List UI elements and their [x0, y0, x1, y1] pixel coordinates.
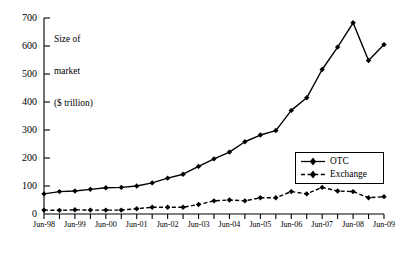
legend-label-otc: OTC [330, 156, 349, 166]
y-axis-title-line-3: ($ trillion) [54, 98, 93, 109]
y-axis-tick-label: 100 [0, 180, 37, 191]
y-axis-tick-label: 200 [0, 152, 37, 163]
legend-swatch-otc-icon [300, 156, 326, 167]
y-axis-tick-label: 0 [0, 208, 37, 219]
y-axis-title-line-1: Size of [54, 34, 93, 45]
y-axis-tick-label: 600 [0, 40, 37, 51]
y-axis-tick-label: 500 [0, 68, 37, 79]
y-axis-title: Size of market ($ trillion) [54, 13, 93, 130]
y-axis-title-line-2: market [54, 66, 93, 77]
y-axis-tick-label: 700 [0, 12, 37, 23]
y-axis-tick-label: 400 [0, 96, 37, 107]
legend-item-otc: OTC [300, 155, 349, 167]
legend-item-exchange: Exchange [300, 168, 367, 180]
legend-swatch-exchange-icon [300, 169, 326, 180]
chart-series [41, 20, 386, 213]
y-axis-tick-label: 300 [0, 124, 37, 135]
legend-label-exchange: Exchange [330, 169, 367, 179]
chart-legend: OTC Exchange [295, 152, 384, 184]
x-axis-tick-label: Jun-09 [364, 220, 400, 229]
